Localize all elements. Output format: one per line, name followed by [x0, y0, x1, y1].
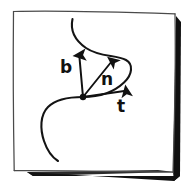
binormal-label: b — [60, 57, 72, 77]
figure-canvas: b n t — [0, 0, 186, 187]
frenet-frame-figure: Frenet frame sketch — [0, 0, 186, 187]
point-on-curve-marker — [80, 94, 86, 100]
tangent-label: t — [117, 96, 125, 116]
paper-background — [0, 0, 186, 187]
normal-label: n — [101, 69, 113, 89]
